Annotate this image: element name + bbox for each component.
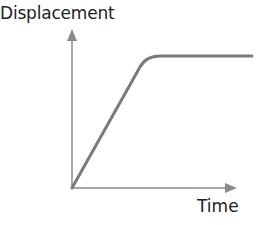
chart-plot (0, 0, 261, 225)
y-axis-arrow-icon (67, 29, 77, 41)
displacement-line (72, 56, 252, 188)
x-axis-arrow-icon (225, 183, 237, 193)
y-axis (67, 29, 77, 188)
x-axis (72, 183, 237, 193)
